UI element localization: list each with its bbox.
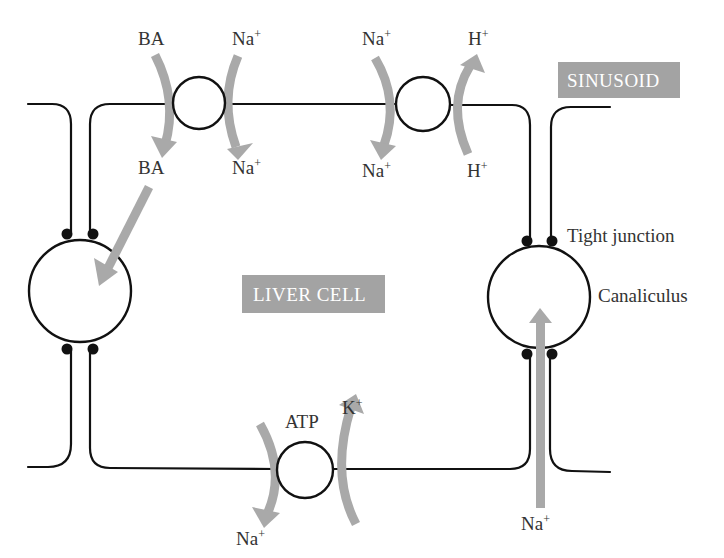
arrowhead xyxy=(151,136,177,158)
na-h-exchanger xyxy=(396,77,450,131)
sinusoid-text: SINUSOID xyxy=(567,70,660,91)
ba-influx-arrow xyxy=(155,55,170,145)
na-exchange-influx-arrow xyxy=(375,58,390,145)
label-na-bottom-2: Na+ xyxy=(362,159,391,181)
sinusoid-region-label: SINUSOID xyxy=(558,62,680,98)
na-paracellular-arrow-shaft xyxy=(536,322,545,508)
tight-junction-dot xyxy=(88,229,99,240)
ba-na-symporter xyxy=(173,77,225,129)
label-canaliculus: Canaliculus xyxy=(598,285,688,306)
left-neighbor-membrane-bottom xyxy=(28,350,71,467)
tight-junction-dot xyxy=(62,344,73,355)
label-tight-junction: Tight junction xyxy=(567,225,675,246)
liver-cell-transport-diagram: BA BA Na+ Na+ Na+ Na+ H+ H+ ATP K+ Na+ N… xyxy=(0,0,724,558)
label-h-bottom: H+ xyxy=(467,159,488,181)
tight-junction-dot xyxy=(522,236,533,247)
tight-junction-dot xyxy=(547,349,558,360)
h-efflux-arrow xyxy=(457,66,470,154)
label-ba-bottom: BA xyxy=(138,157,165,178)
label-na-bottom-1: Na+ xyxy=(232,156,261,178)
label-k: K+ xyxy=(342,396,363,418)
na-k-atpase xyxy=(277,442,333,498)
arrowhead xyxy=(252,507,280,528)
tight-junction-dot xyxy=(88,344,99,355)
label-na-top-1: Na+ xyxy=(232,27,261,49)
na-influx-arrow xyxy=(228,56,238,147)
arrowhead xyxy=(370,140,396,160)
label-h-top: H+ xyxy=(468,27,489,49)
liver-cell-region-label: LIVER CELL xyxy=(242,275,385,313)
label-atp: ATP xyxy=(285,411,319,432)
label-na-atpase: Na+ xyxy=(236,527,265,549)
right-neighbor-membrane-top xyxy=(551,107,610,238)
left-neighbor-membrane-top xyxy=(28,104,71,232)
tight-junction-dot xyxy=(62,229,73,240)
liver-cell-text: LIVER CELL xyxy=(253,284,366,305)
cell-membrane-bottom-left xyxy=(90,350,277,469)
k-influx-arrow xyxy=(342,407,356,524)
ba-secretion-arrow xyxy=(108,187,149,268)
label-na-paracellular: Na+ xyxy=(521,512,550,534)
tight-junction-dot xyxy=(547,236,558,247)
label-na-top-2: Na+ xyxy=(362,27,391,49)
tight-junction-dot xyxy=(522,349,533,360)
right-neighbor-membrane-bottom xyxy=(550,356,610,472)
label-ba-top: BA xyxy=(138,28,165,49)
